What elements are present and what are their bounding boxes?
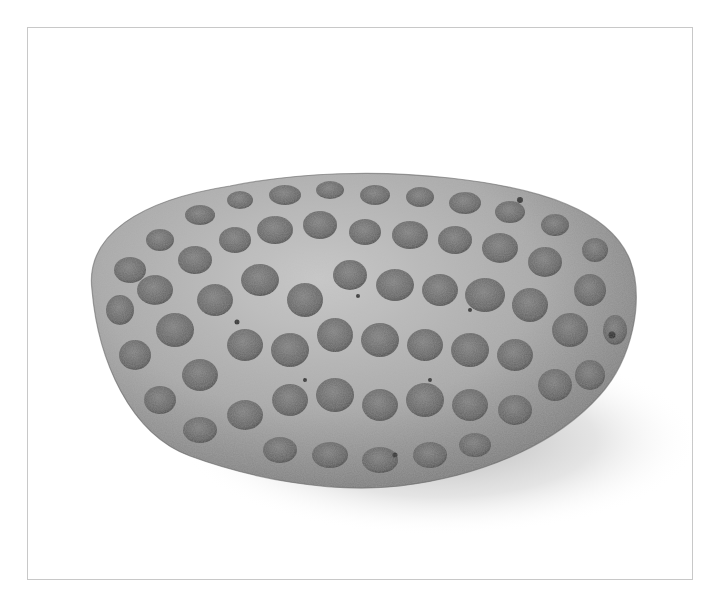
stone-photo [0,0,719,597]
